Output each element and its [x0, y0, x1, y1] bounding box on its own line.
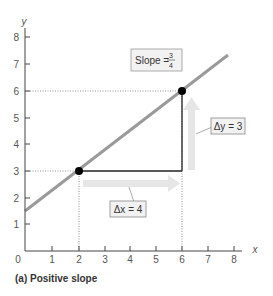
figure-caption: (a) Positive slope: [15, 273, 97, 284]
slope-numerator: 3: [169, 52, 173, 59]
delta-x-label: Δx = 4: [114, 204, 143, 215]
slope-label: Slope =: [135, 55, 169, 66]
origin-label: 0: [15, 254, 21, 265]
y-tick-2: 2: [13, 193, 19, 204]
chart-canvas: 1 2 3 4 5 6 7 8 y 0 1 2 3 4 5 6 7 8 x: [0, 0, 273, 296]
x-tick-2: 2: [76, 254, 82, 265]
x-axis: 0 1 2 3 4 5 6 7 8 x: [15, 244, 258, 265]
x-tick-7: 7: [205, 254, 211, 265]
y-tick-4: 4: [13, 139, 19, 150]
x-tick-3: 3: [102, 254, 108, 265]
y-tick-5: 5: [13, 113, 19, 124]
delta-x-arrow: [83, 175, 180, 192]
delta-y-label-box: Δy = 3: [196, 118, 245, 134]
x-tick-6: 6: [179, 254, 185, 265]
point-6-6: [178, 87, 186, 95]
y-axis: 1 2 3 4 5 6 7 8 y: [13, 16, 30, 251]
x-tick-1: 1: [49, 254, 55, 265]
delta-x-label-box: Δx = 4: [110, 187, 146, 217]
x-tick-8: 8: [231, 254, 237, 265]
y-tick-1: 1: [13, 219, 19, 230]
slope-label-box: Slope = 3 4: [131, 49, 182, 71]
slope-denominator: 4: [169, 62, 173, 69]
y-tick-8: 8: [13, 32, 19, 43]
x-tick-5: 5: [153, 254, 159, 265]
y-axis-label: y: [21, 16, 28, 27]
x-axis-label: x: [252, 244, 259, 255]
point-2-3: [75, 167, 83, 175]
delta-y-label: Δy = 3: [214, 121, 243, 132]
x-tick-4: 4: [127, 254, 133, 265]
y-tick-6: 6: [13, 86, 19, 97]
y-tick-3: 3: [13, 166, 19, 177]
y-tick-7: 7: [13, 59, 19, 70]
